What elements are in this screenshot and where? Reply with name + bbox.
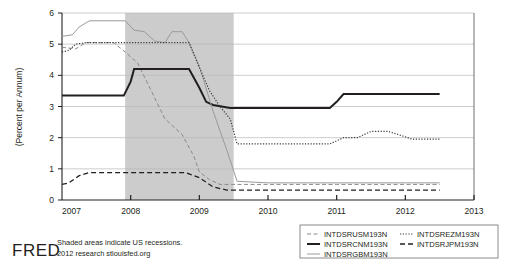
source-note: 2012 research stlouisfed.org	[57, 249, 150, 258]
y-tick-label: 3	[49, 102, 54, 112]
y-tick-label: 2	[49, 133, 54, 143]
x-tick-label: 2009	[190, 206, 209, 216]
y-tick-label: 5	[49, 39, 54, 49]
legend-label-INTDSRJPM193N: INTDSRJPM193N	[417, 240, 479, 249]
x-tick-label: 2010	[259, 206, 278, 216]
y-tick-label: 4	[49, 70, 54, 80]
x-tick-label: 2007	[62, 206, 81, 216]
x-tick-label: 2013	[465, 206, 484, 216]
x-tick-label: 2012	[396, 206, 415, 216]
fred-logo: FRED	[12, 241, 60, 260]
legend-label-INTDSRGBM193N: INTDSRGBM193N	[324, 250, 388, 259]
y-tick-label: 0	[49, 195, 54, 205]
y-tick-label: 1	[49, 164, 54, 174]
x-tick-label: 2008	[121, 206, 140, 216]
legend-label-INTDSRCNM193N: INTDSRCNM193N	[324, 240, 388, 249]
y-tick-label: 6	[49, 8, 54, 18]
x-tick-label: 2011	[328, 206, 347, 216]
legend-label-INTDSREZM193N: INTDSREZM193N	[417, 230, 479, 239]
fred-interest-rate-chart: 0123456 2007200820092010201120122013 (Pe…	[0, 0, 507, 273]
legend: INTDSRUSM193NINTDSRCNM193NINTDSRGBM193NI…	[300, 225, 498, 259]
legend-label-INTDSRUSM193N: INTDSRUSM193N	[324, 230, 387, 239]
y-axis-label: (Percent per Annum)	[14, 68, 24, 147]
recession-note: Shaded areas indicate US recessions.	[57, 238, 182, 247]
